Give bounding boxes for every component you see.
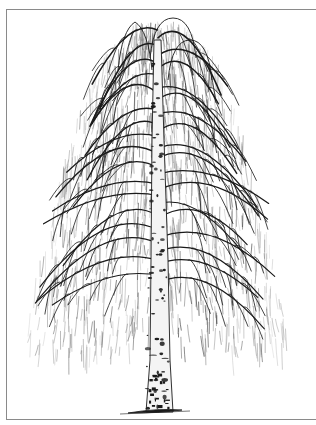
ground-shadow xyxy=(120,409,190,414)
weeping-birch-illustration xyxy=(0,0,316,425)
illustration-canvas: Black-and-white ink drawing of a weeping… xyxy=(0,0,316,425)
